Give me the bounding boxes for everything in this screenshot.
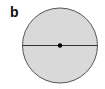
circle-diagram	[0, 0, 105, 89]
center-point	[58, 43, 62, 47]
